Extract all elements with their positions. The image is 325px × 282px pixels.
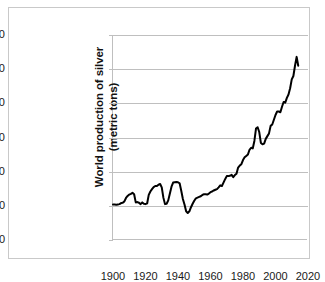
y-tick-label: 10.000 [0,166,5,177]
plot-area: World production of silver (metric tons)… [112,35,307,240]
y-tick-label: 20.000 [0,97,5,108]
y-tick-mark [109,240,113,241]
y-tick-label: 25.000 [0,63,5,74]
chart-frame: World production of silver (metric tons)… [8,7,310,259]
chart-figure: World production of silver (metric tons)… [0,0,318,282]
series-line-world-production-of-silver [113,57,298,213]
y-tick-label: 15.000 [0,132,5,143]
y-tick-label: 30.000 [0,29,5,40]
series-plot [113,35,308,240]
y-tick-label: 0 [0,234,5,245]
y-tick-label: 5.000 [0,200,5,211]
y-axis-title-line1: World production of silver [92,12,106,222]
x-tick-label: 2020 [288,271,325,282]
